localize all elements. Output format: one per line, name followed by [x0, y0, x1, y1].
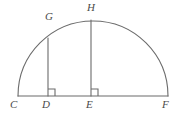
right-angle-marker-d	[48, 89, 55, 96]
geometry-figure: C D E F G H	[0, 0, 180, 117]
point-label-d: D	[42, 99, 50, 110]
right-angle-marker-e	[91, 89, 98, 96]
point-label-f: F	[162, 99, 169, 110]
semicircle-arc	[18, 21, 168, 96]
point-label-h: H	[87, 2, 95, 13]
point-label-g: G	[45, 11, 53, 22]
point-label-c: C	[10, 99, 17, 110]
point-label-e: E	[86, 99, 93, 110]
